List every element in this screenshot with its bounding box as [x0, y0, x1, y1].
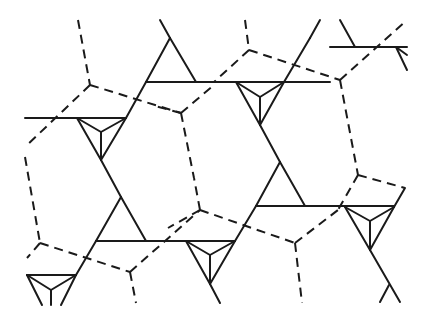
- dashed-edge: [168, 210, 200, 228]
- dashed-edge: [249, 50, 340, 80]
- dashed-edge: [194, 178, 200, 210]
- solid-edge: [256, 162, 280, 206]
- solid-edge: [146, 38, 170, 82]
- dashed-edge: [358, 175, 405, 188]
- dashed-edge: [200, 210, 295, 243]
- solid-edge: [101, 160, 121, 197]
- solid-edge: [160, 20, 170, 38]
- solid-edge: [340, 20, 355, 47]
- solid-edge: [96, 197, 121, 241]
- solid-edge: [284, 38, 310, 82]
- dashed-edge: [78, 20, 90, 85]
- dashed-edge: [245, 20, 249, 50]
- solid-edge: [280, 162, 305, 206]
- solid-edge: [260, 125, 280, 162]
- solid-edge: [170, 38, 196, 82]
- dashed-edge: [340, 80, 358, 175]
- solid-edge: [310, 20, 320, 38]
- dashed-edge: [27, 243, 40, 258]
- dashed-edge: [295, 243, 302, 303]
- dashed-edge: [181, 85, 214, 113]
- solid-edge: [210, 284, 220, 303]
- dashed-edge: [130, 272, 136, 303]
- solid-edge: [380, 285, 389, 302]
- solid-lattice-lines: [25, 20, 407, 305]
- dashed-edge: [25, 85, 90, 147]
- dashed-edge: [90, 85, 181, 113]
- lattice-diagram: [0, 0, 431, 323]
- dashed-edge: [214, 50, 249, 82]
- dashed-edge: [338, 175, 358, 210]
- solid-edge: [121, 197, 146, 241]
- dashed-edge: [181, 113, 194, 178]
- dashed-edge: [25, 157, 40, 243]
- solid-edge: [235, 206, 256, 241]
- dashed-dual-lines: [25, 20, 407, 303]
- dashed-edge: [40, 243, 130, 272]
- solid-edge: [394, 188, 405, 207]
- dashed-edge: [295, 210, 338, 243]
